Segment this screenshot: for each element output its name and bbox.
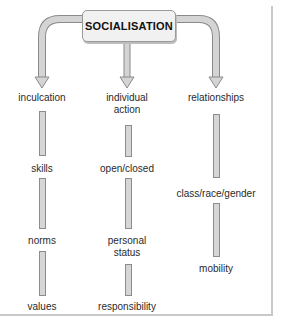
node-mobility: mobility xyxy=(176,263,256,275)
node-responsibility: responsibility xyxy=(82,301,172,313)
node-open-closed: open/closed xyxy=(84,163,170,175)
node-relationships: relationships xyxy=(176,92,256,104)
node-skills: skills xyxy=(6,163,78,175)
node-class-race-gender: class/race/gender xyxy=(170,188,262,200)
node-individual-action-line2: action xyxy=(92,104,162,116)
connector-bar xyxy=(39,251,46,296)
node-individual-action: individual action xyxy=(92,92,162,116)
connector-bar xyxy=(39,178,46,229)
node-norms: norms xyxy=(6,235,78,247)
root-node-socialisation: SOCIALISATION xyxy=(82,10,176,42)
root-node-label: SOCIALISATION xyxy=(85,20,173,32)
connector-bar xyxy=(125,125,132,157)
node-values: values xyxy=(6,301,78,313)
connector-bar xyxy=(213,114,220,178)
connector-bar xyxy=(125,264,132,296)
node-inculcation: inculcation xyxy=(6,92,78,104)
arrow-to-relationships-icon xyxy=(174,19,223,88)
node-personal-status-line2: status xyxy=(92,247,162,259)
connector-bar xyxy=(125,178,132,229)
node-individual-action-line1: individual xyxy=(92,92,162,104)
node-personal-status-line1: personal xyxy=(92,235,162,247)
arrow-to-inculcation-icon xyxy=(35,19,84,88)
connector-bar xyxy=(213,203,220,257)
node-personal-status: personal status xyxy=(92,235,162,259)
arrow-to-individual-action-icon xyxy=(120,40,134,88)
connector-bar xyxy=(39,111,46,156)
